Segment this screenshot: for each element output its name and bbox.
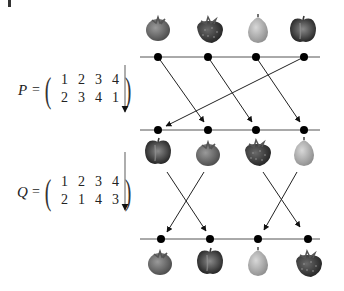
strawberry-icon: [197, 17, 223, 43]
pear-icon: [248, 14, 268, 43]
p-permutation-arrows: [158, 57, 304, 126]
tomato-icon: [148, 251, 172, 275]
tomato-icon: [146, 17, 170, 41]
apple-icon: [145, 138, 171, 164]
strawberry-icon: [245, 140, 271, 166]
tomato-icon: [196, 142, 220, 166]
pear-icon: [294, 137, 314, 166]
apple-icon: [290, 16, 316, 42]
apple-icon: [197, 248, 223, 274]
pear-icon: [248, 247, 268, 276]
row-1-fruits: [146, 14, 316, 43]
strawberry-icon: [296, 251, 322, 277]
permutation-diagram: [0, 0, 344, 291]
row-3-fruits: [148, 247, 322, 277]
row-2-fruits: [145, 137, 314, 166]
q-permutation-arrows: [167, 172, 300, 232]
